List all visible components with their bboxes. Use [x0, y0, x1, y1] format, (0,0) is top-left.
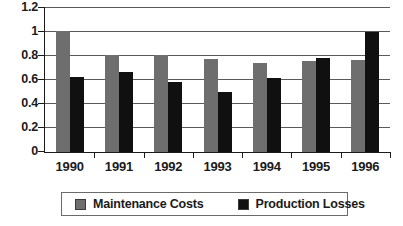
x-tick-label-1990: 1990: [45, 159, 94, 174]
legend-entry-production-losses: Production Losses: [238, 197, 365, 211]
x-tick-mark: [144, 153, 145, 158]
x-tick-mark: [242, 153, 243, 158]
x-tick-label-1994: 1994: [242, 159, 291, 174]
x-axis-line: [44, 152, 391, 153]
bar-1990-series2: [70, 77, 84, 152]
bar-1995-series1: [302, 61, 316, 152]
y-tick-label: 0: [4, 145, 38, 157]
x-tick-mark: [341, 153, 342, 158]
legend-swatch-icon: [238, 199, 249, 210]
x-tick-label-1996: 1996: [341, 159, 390, 174]
bars-layer: [45, 7, 390, 152]
bar-1991-series1: [105, 55, 119, 152]
bar-1996-series2: [365, 32, 379, 152]
x-tick-mark: [291, 153, 292, 158]
bar-1990-series1: [56, 31, 70, 152]
bar-1993-series2: [218, 92, 232, 152]
y-axis-line: [44, 7, 45, 153]
legend-swatch-icon: [75, 199, 86, 210]
x-tick-mark: [390, 153, 391, 158]
legend-label: Production Losses: [256, 197, 365, 211]
legend-entry-maintenance-costs: Maintenance Costs: [75, 197, 204, 211]
x-tick-label-1991: 1991: [94, 159, 143, 174]
x-tick-label-1993: 1993: [193, 159, 242, 174]
x-tick-mark: [94, 153, 95, 158]
x-tick-label-1995: 1995: [291, 159, 340, 174]
legend-label: Maintenance Costs: [93, 197, 204, 211]
bar-1994-series2: [267, 78, 281, 152]
y-tick-label: 1.2: [4, 1, 38, 13]
bar-chart: 1.2 1 0.8 0.6 0.4 0.2 0 1990199119921993…: [0, 0, 403, 226]
x-tick-mark: [193, 153, 194, 158]
bar-1992-series2: [168, 82, 182, 152]
y-tick-label: 0.2: [4, 121, 38, 133]
bar-1995-series2: [316, 58, 330, 152]
y-tick-label: 0.6: [4, 73, 38, 85]
y-tick-label: 0.8: [4, 49, 38, 61]
bar-1996-series1: [351, 60, 365, 152]
y-axis-labels: 1.2 1 0.8 0.6 0.4 0.2 0: [0, 0, 38, 160]
bar-1991-series2: [119, 72, 133, 152]
bar-1992-series1: [154, 55, 168, 152]
y-tick-label: 1: [4, 25, 38, 37]
bar-1993-series1: [204, 59, 218, 152]
x-tick-label-1992: 1992: [144, 159, 193, 174]
y-tick-label: 0.4: [4, 97, 38, 109]
x-axis-labels: 1990199119921993199419951996: [45, 159, 390, 179]
chart-legend: Maintenance Costs Production Losses: [61, 192, 348, 216]
bar-1994-series1: [253, 63, 267, 152]
